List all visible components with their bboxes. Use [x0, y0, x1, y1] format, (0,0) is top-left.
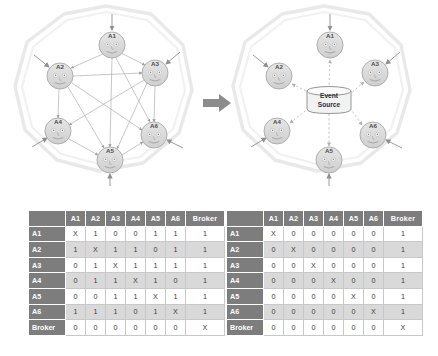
node-a3-left[interactable]: A3: [142, 60, 168, 86]
cell-a1-a1: X: [66, 226, 86, 242]
event-source-label-line1: Event: [320, 92, 339, 99]
node-a5-left[interactable]: A5: [97, 147, 123, 173]
ext-arrow-a2: [34, 55, 49, 67]
cell-broker-a2: 0: [284, 320, 304, 336]
cell-a4-a4: X: [126, 273, 146, 289]
cell-a4-a2: 1: [86, 273, 106, 289]
edge-broker-a4: [290, 108, 309, 123]
cell-broker-a1: 0: [66, 320, 86, 336]
edge-group-left: [58, 53, 155, 155]
event-source-broker[interactable]: Event Source: [307, 87, 351, 114]
cell-a3-a5: 1: [146, 257, 166, 273]
row-header-a3: A3: [227, 257, 264, 273]
table-header-row: A1 A2 A3 A4 A5 A6 Broker: [227, 211, 423, 227]
cell-a4-a2: 0: [284, 273, 304, 289]
tables-area: A1 A2 A3 A4 A5 A6 Broker A1X100111A21X11…: [0, 205, 438, 350]
node-a2-left[interactable]: A2: [47, 63, 73, 89]
cell-a5-a4: 1: [126, 288, 146, 304]
node-a2-right[interactable]: A2: [266, 63, 292, 89]
cell-a4-a6: 0: [364, 273, 384, 289]
diagram-canvas: A1 A2 A3 A4 A5: [0, 0, 438, 196]
cell-a3-a6: 1: [166, 257, 186, 273]
cell-a3-a6: 0: [364, 257, 384, 273]
cell-a6-a1: 0: [264, 304, 284, 320]
col-header-a1: A1: [66, 211, 86, 227]
col-header-a2: A2: [86, 211, 106, 227]
node-a1-right-label: A1: [326, 32, 334, 39]
cell-a2-a3: 0: [304, 242, 324, 258]
table-row: A4011X101: [29, 273, 225, 289]
cell-broker-a4: 0: [324, 320, 344, 336]
cell-a3-a5: 0: [344, 257, 364, 273]
edge-a3-a4: [69, 80, 144, 125]
edge-broker-a1: [329, 60, 330, 89]
table-row: A611101X1: [29, 304, 225, 320]
connection-matrix-direct-wrapper: A1 A2 A3 A4 A5 A6 Broker A1X100111A21X11…: [28, 210, 225, 336]
cell-a6-broker: 1: [186, 304, 225, 320]
row-header-a5: A5: [227, 288, 264, 304]
transition-arrow-icon: [203, 94, 231, 112]
cell-a4-a3: 0: [304, 273, 324, 289]
cell-a6-a2: 0: [284, 304, 304, 320]
edge-a2-a6: [72, 83, 142, 130]
ext-arrow-a2-right: [253, 55, 268, 67]
edge-a2-a3: [73, 73, 142, 76]
cell-a2-a5: 0: [344, 242, 364, 258]
cell-a5-a6: 0: [364, 288, 384, 304]
cell-a5-a6: 1: [166, 288, 186, 304]
table-body: A1X100111A21X11011A301X1111A4011X101A500…: [29, 226, 225, 335]
table-header-row: A1 A2 A3 A4 A5 A6 Broker: [29, 211, 225, 227]
node-a3-right[interactable]: A3: [362, 60, 388, 86]
cell-broker-a5: 0: [344, 320, 364, 336]
cell-a1-a5: 0: [344, 226, 364, 242]
cell-a2-a4: 0: [324, 242, 344, 258]
cell-a1-a3: 0: [106, 226, 126, 242]
diagram-right: A1 A2 A3 A4 A5: [233, 6, 410, 186]
cell-a1-a5: 1: [146, 226, 166, 242]
edge-a1-a2: [71, 54, 103, 68]
cell-a2-a6: 0: [364, 242, 384, 258]
cell-a3-a2: 0: [284, 257, 304, 273]
row-header-broker: Broker: [227, 320, 264, 336]
table-row: A4000X001: [227, 273, 423, 289]
edge-a4-a5: [69, 139, 98, 155]
cell-a4-broker: 1: [384, 273, 423, 289]
connection-matrix-direct: A1 A2 A3 A4 A5 A6 Broker A1X100111A21X11…: [28, 210, 225, 336]
cell-a3-a3: X: [304, 257, 324, 273]
cell-a6-a2: 1: [86, 304, 106, 320]
cell-a2-broker: 1: [384, 242, 423, 258]
row-header-a1: A1: [29, 226, 66, 242]
node-a6-left-label: A6: [150, 122, 158, 129]
table-row: A20X00001: [227, 242, 423, 258]
row-header-a4: A4: [29, 273, 66, 289]
node-a1-right[interactable]: A1: [317, 32, 343, 58]
node-a1-left[interactable]: A1: [99, 32, 125, 58]
cell-a3-broker: 1: [186, 257, 225, 273]
node-a3-left-label: A3: [151, 60, 159, 67]
cell-a3-a1: 0: [66, 257, 86, 273]
cell-broker-a2: 0: [86, 320, 106, 336]
cell-a2-a2: X: [284, 242, 304, 258]
connection-matrix-broker: A1 A2 A3 A4 A5 A6 Broker A1X000001A20X00…: [226, 210, 423, 336]
cell-a1-a3: 0: [304, 226, 324, 242]
node-a4-right[interactable]: A4: [264, 118, 290, 144]
corner-cell: [227, 211, 264, 227]
node-a6-right[interactable]: A6: [360, 122, 386, 148]
col-header-a6: A6: [364, 211, 384, 227]
node-a4-left-label: A4: [54, 118, 62, 125]
col-header-a3: A3: [106, 211, 126, 227]
node-a4-left[interactable]: A4: [45, 118, 71, 144]
node-a3-right-label: A3: [371, 60, 379, 67]
node-a5-right[interactable]: A5: [316, 147, 342, 173]
cell-a6-a5: 1: [146, 304, 166, 320]
table-row: A1X100111: [29, 226, 225, 242]
cell-a5-broker: 1: [186, 288, 225, 304]
cell-a4-a1: 0: [264, 273, 284, 289]
table-row: Broker000000X: [227, 320, 423, 336]
col-header-a6: A6: [166, 211, 186, 227]
cell-a2-a1: 0: [264, 242, 284, 258]
cell-a5-broker: 1: [384, 288, 423, 304]
cell-a1-a2: 1: [86, 226, 106, 242]
node-a2-right-label: A2: [275, 63, 283, 70]
node-a6-left[interactable]: A6: [141, 122, 167, 148]
